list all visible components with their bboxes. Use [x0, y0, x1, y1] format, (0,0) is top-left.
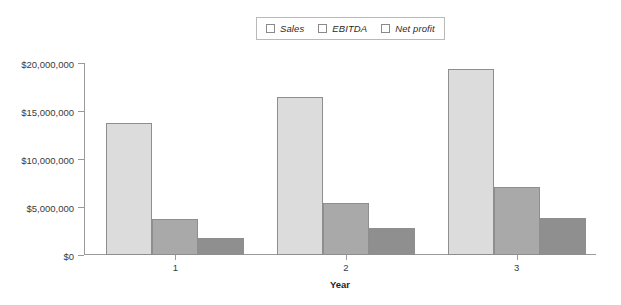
- bar-ebitda-year-2[interactable]: [323, 203, 369, 255]
- legend-swatch-icon-ebitda: [318, 24, 327, 33]
- legend-swatch-icon-net-profit: [381, 24, 390, 33]
- legend-item-net-profit[interactable]: Net profit: [381, 23, 435, 34]
- x-axis-tick-label: 1: [173, 262, 178, 273]
- x-axis-tick: [346, 255, 347, 260]
- y-axis-tick-label: $5,000,000: [26, 202, 74, 213]
- bar-group: [448, 63, 586, 255]
- x-axis-title: Year: [84, 279, 596, 290]
- y-axis-tick-label: $10,000,000: [21, 154, 74, 165]
- bar-groups: [84, 63, 596, 255]
- chart-legend: Sales EBITDA Net profit: [256, 17, 445, 40]
- bar-group: [277, 63, 415, 255]
- bar-sales-year-2[interactable]: [277, 97, 323, 255]
- plot-area: $20,000,000$15,000,000$10,000,000$5,000,…: [84, 63, 596, 255]
- bar-net-profit-year-1[interactable]: [198, 238, 244, 255]
- bar-net-profit-year-3[interactable]: [540, 218, 586, 255]
- y-axis-tick-label: $20,000,000: [21, 58, 74, 69]
- bar-chart: Sales EBITDA Net profit $20,000,000$15,0…: [0, 0, 621, 305]
- y-axis-tick: $0: [78, 255, 84, 256]
- legend-swatch-icon-sales: [266, 24, 275, 33]
- legend-label-ebitda: EBITDA: [332, 23, 367, 34]
- bar-sales-year-1[interactable]: [106, 123, 152, 255]
- legend-item-ebitda[interactable]: EBITDA: [318, 23, 367, 34]
- x-axis-tick: [175, 255, 176, 260]
- legend-label-sales: Sales: [280, 23, 304, 34]
- bar-group: [106, 63, 244, 255]
- x-axis-tick: [517, 255, 518, 260]
- bar-net-profit-year-2[interactable]: [369, 228, 415, 255]
- y-axis-tick-label: $15,000,000: [21, 106, 74, 117]
- legend-label-net-profit: Net profit: [395, 23, 435, 34]
- x-axis-tick-label: 3: [514, 262, 519, 273]
- x-axis-tick-label: 2: [343, 262, 348, 273]
- bar-ebitda-year-1[interactable]: [152, 219, 198, 255]
- y-axis-tick-label: $0: [63, 250, 74, 261]
- bar-ebitda-year-3[interactable]: [494, 187, 540, 255]
- legend-item-sales[interactable]: Sales: [266, 23, 304, 34]
- bar-sales-year-3[interactable]: [448, 69, 494, 255]
